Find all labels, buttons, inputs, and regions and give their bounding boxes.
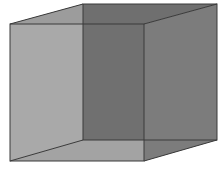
cube-back-face-overlap [83, 24, 144, 140]
cube-left-face [10, 24, 83, 161]
cube-diagram [0, 0, 222, 170]
cube-right-face [144, 4, 217, 161]
